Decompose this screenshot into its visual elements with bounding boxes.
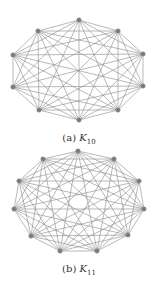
graph-edge <box>60 181 139 251</box>
graph-edge <box>13 87 79 120</box>
graph-edge <box>13 54 143 55</box>
graph-vertex <box>142 207 147 212</box>
graph-vertex <box>126 233 131 238</box>
graph-vertex <box>141 52 146 57</box>
graph-vertex <box>95 249 100 254</box>
caption-k10: (a) K10 <box>0 132 158 148</box>
caption-k11: (b) K11 <box>0 263 158 279</box>
caption-label: (a) <box>62 132 76 143</box>
graph-edge <box>43 151 78 159</box>
complete-graph-k11 <box>12 149 147 254</box>
graph-vertex <box>58 249 63 254</box>
caption-graph-subscript: 10 <box>87 138 96 146</box>
graph-edge <box>39 86 143 110</box>
graph-vertex <box>137 179 142 184</box>
graph-edge <box>31 209 144 236</box>
caption-label: (b) <box>62 263 76 274</box>
graph-edge <box>13 87 39 110</box>
graph-vertex <box>41 157 46 162</box>
graph-edge <box>13 20 79 87</box>
caption-graph-symbol: K <box>80 263 87 274</box>
graph-edge <box>97 209 144 251</box>
complete-graph-k10 <box>11 18 146 123</box>
graph-edge <box>13 55 39 110</box>
graph-vertex <box>29 234 34 239</box>
graph-vertex <box>77 18 82 23</box>
graph-vertex <box>116 108 121 113</box>
graph-vertex <box>116 29 121 34</box>
graph-edge <box>38 31 39 110</box>
graph-edge <box>19 181 31 236</box>
graph-edge <box>79 20 143 54</box>
graph-edge <box>78 151 97 251</box>
graph-edge <box>39 20 79 110</box>
graph-vertex <box>36 29 41 34</box>
graph-vertex <box>141 84 146 89</box>
graph-vertex <box>77 118 82 123</box>
graph-edge <box>79 20 118 31</box>
caption-graph-subscript: 11 <box>87 269 96 277</box>
graph-edge <box>13 20 79 55</box>
graph-edge <box>19 159 43 181</box>
graph-edge <box>14 209 128 235</box>
graph-edge <box>39 110 79 120</box>
graph-edge <box>31 159 43 236</box>
graph-vertex <box>11 53 16 58</box>
graph-edge <box>13 31 38 55</box>
graph-edge <box>13 55 118 110</box>
graph-vertex <box>112 157 117 162</box>
graph-edge <box>19 181 144 209</box>
graph-vertex <box>37 108 42 113</box>
graph-vertex <box>17 179 22 184</box>
graph-vertex <box>11 85 16 90</box>
graph-edge <box>13 86 143 87</box>
caption-graph-symbol: K <box>79 132 86 143</box>
graph-edge <box>31 159 114 236</box>
graph-vertex <box>12 207 17 212</box>
graph-edge <box>38 20 79 31</box>
graph-edge <box>114 159 139 181</box>
graph-edge <box>38 31 143 54</box>
graph-edge <box>118 31 143 86</box>
graph-edge <box>79 110 118 120</box>
graph-vertex <box>76 149 81 154</box>
graph-edge <box>118 86 143 110</box>
graph-edge <box>78 151 114 159</box>
graph-edge <box>19 151 78 181</box>
